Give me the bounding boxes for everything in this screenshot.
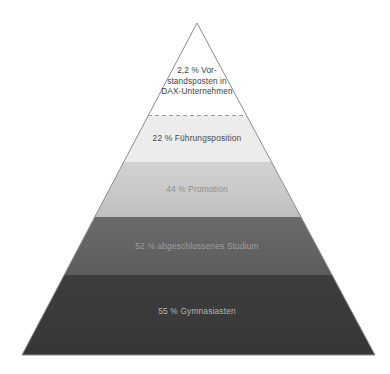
pyramid-band-1 [0,0,390,116]
pyramid-figure: 2,2 % Vor- standsposten in DAX-Unternehm… [0,0,390,374]
pyramid-chart [0,0,390,374]
pyramid-bands [0,0,390,356]
pyramid-band-5 [0,275,390,356]
pyramid-band-2 [0,116,390,162]
pyramid-band-4 [0,217,390,275]
pyramid-band-3 [0,162,390,217]
